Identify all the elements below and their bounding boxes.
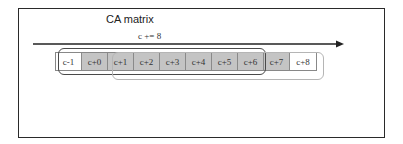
next-window-outline: [112, 52, 324, 80]
